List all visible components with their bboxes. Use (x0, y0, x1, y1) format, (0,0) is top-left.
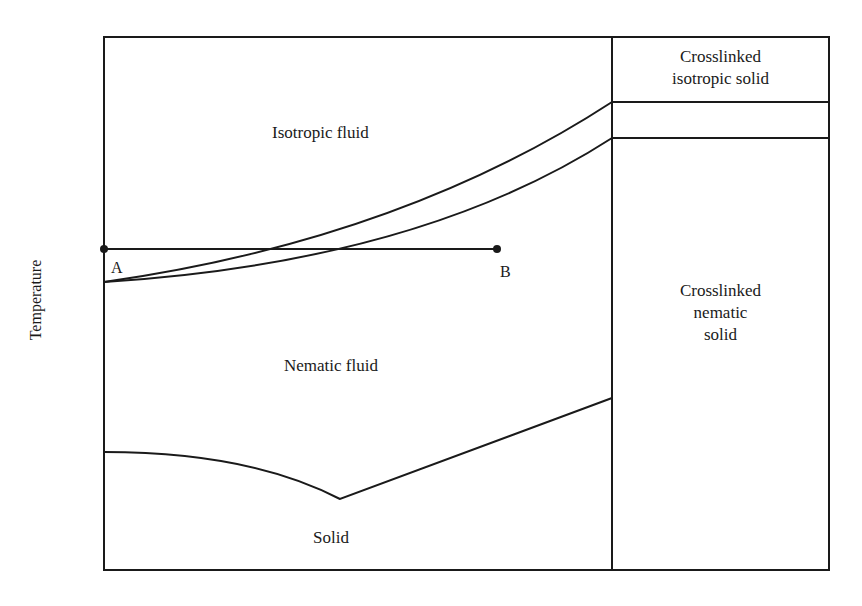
crosslinked-isotropic-line-1: Crosslinked (612, 46, 829, 68)
region-solid: Solid (313, 527, 349, 549)
solid-boundary-curve (104, 398, 612, 499)
region-isotropic-fluid: Isotropic fluid (272, 122, 369, 144)
crosslinked-isotropic-line-2: isotropic solid (612, 68, 829, 90)
crosslinked-nematic-line-3: solid (612, 324, 829, 346)
y-axis-label: Temperature (27, 260, 45, 341)
point-b-label: B (500, 261, 511, 283)
region-crosslinked-isotropic-solid: Crosslinked isotropic solid (612, 46, 829, 90)
region-nematic-fluid: Nematic fluid (284, 355, 378, 377)
region-crosslinked-nematic-solid: Crosslinked nematic solid (612, 280, 829, 346)
nematic-boundary-lower-curve (104, 138, 612, 282)
crosslinked-nematic-line-1: Crosslinked (612, 280, 829, 302)
point-b-marker (493, 245, 501, 253)
crosslinked-nematic-line-2: nematic (612, 302, 829, 324)
point-a-label: A (111, 257, 123, 279)
point-a-marker (100, 245, 108, 253)
